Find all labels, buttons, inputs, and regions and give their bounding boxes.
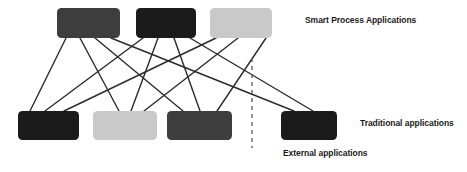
connector-links	[30, 38, 313, 111]
smart-process-applications	[57, 8, 272, 38]
link-spa2-trad3	[174, 38, 200, 111]
traditional-app-3[interactable]	[167, 111, 232, 140]
traditional-app-1[interactable]	[18, 111, 79, 140]
link-spa2-trad2	[131, 38, 158, 111]
link-spa2-trad1	[45, 38, 143, 111]
label-traditional-applications: Traditional applications	[360, 118, 454, 128]
smart-process-app-1[interactable]	[57, 8, 120, 38]
label-smart-process-applications: Smart Process Applications	[305, 15, 416, 25]
smart-process-app-2[interactable]	[136, 8, 196, 38]
smart-process-app-3[interactable]	[210, 8, 272, 38]
label-external-applications: External applications	[283, 148, 367, 158]
traditional-app-2[interactable]	[93, 111, 157, 140]
traditional-and-external-applications	[18, 111, 337, 140]
diagram-svg	[0, 0, 467, 172]
diagram-canvas: Smart Process Applications Traditional a…	[0, 0, 467, 172]
external-app-1[interactable]	[281, 111, 337, 140]
